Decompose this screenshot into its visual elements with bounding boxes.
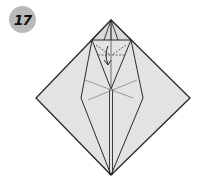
diagram-canvas: 17 — [0, 0, 203, 184]
paper-diamond — [36, 20, 190, 175]
origami-diagram — [0, 0, 203, 184]
